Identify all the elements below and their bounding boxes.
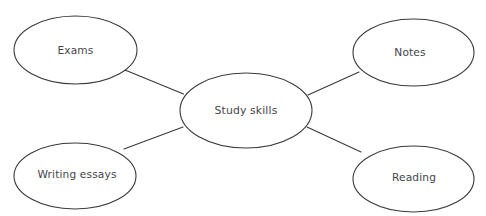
mind-map-diagram: Exams Notes Writing essays Reading Study… — [0, 0, 486, 216]
connector-writing-essays-to-center — [124, 127, 183, 149]
reading-label: Reading — [392, 171, 436, 183]
node-exams[interactable]: Exams — [14, 16, 137, 84]
connector-exams-to-center — [125, 70, 184, 94]
connector-notes-to-center — [308, 72, 359, 95]
connector-reading-to-center — [307, 127, 361, 152]
node-writing-essays[interactable]: Writing essays — [14, 143, 136, 209]
notes-label: Notes — [394, 46, 425, 58]
node-reading[interactable]: Reading — [353, 146, 474, 212]
node-notes[interactable]: Notes — [353, 19, 474, 86]
writing-essays-label: Writing essays — [37, 168, 116, 180]
node-study-skills[interactable]: Study skills — [180, 73, 312, 148]
exams-label: Exams — [57, 44, 93, 56]
study-skills-label: Study skills — [215, 104, 278, 117]
diagram-canvas-svg: Exams Notes Writing essays Reading Study… — [0, 0, 486, 216]
